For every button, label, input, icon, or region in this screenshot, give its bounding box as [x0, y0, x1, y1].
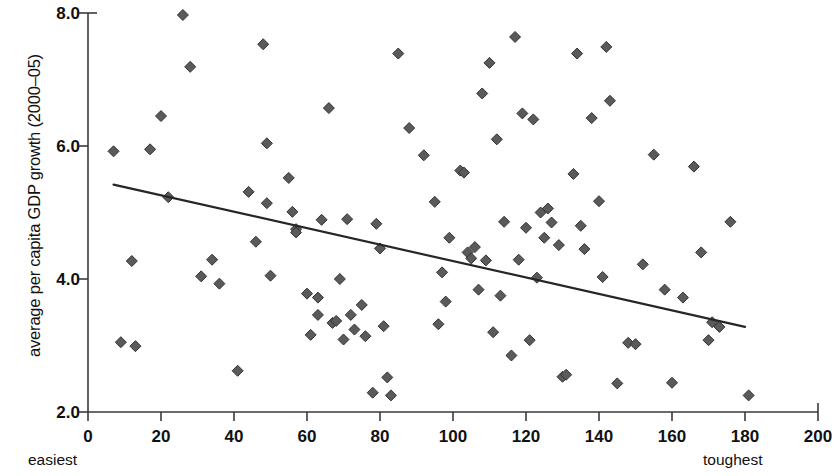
x-axis-tick-label: 20 — [152, 428, 171, 445]
plot-area — [0, 0, 834, 476]
data-point-marker — [145, 144, 156, 155]
data-point-marker — [521, 222, 532, 233]
data-point-marker — [312, 292, 323, 303]
data-point-marker — [484, 57, 495, 68]
data-point-marker — [477, 88, 488, 99]
data-point-marker — [338, 334, 349, 345]
data-point-marker — [185, 61, 196, 72]
data-point-marker — [349, 324, 360, 335]
data-point-marker — [302, 288, 313, 299]
data-point-marker — [539, 232, 550, 243]
data-point-marker — [491, 134, 502, 145]
data-point-marker — [586, 113, 597, 124]
data-point-marker — [214, 278, 225, 289]
data-point-marker — [385, 390, 396, 401]
data-point-marker — [495, 290, 506, 301]
data-point-marker — [126, 256, 137, 267]
x-axis-tick-label: 140 — [585, 428, 613, 445]
data-point-marker — [265, 270, 276, 281]
data-point-marker — [648, 149, 659, 160]
data-point-marker — [261, 198, 272, 209]
data-point-marker — [261, 138, 272, 149]
data-point-marker — [546, 217, 557, 228]
data-point-marker — [488, 327, 499, 338]
data-point-marker — [696, 247, 707, 258]
data-point-marker — [575, 220, 586, 231]
data-point-marker — [637, 259, 648, 270]
data-point-marker — [510, 31, 521, 42]
data-point-marker — [342, 214, 353, 225]
data-point-marker — [177, 9, 188, 20]
data-point-marker — [207, 254, 218, 265]
data-point-marker — [378, 321, 389, 332]
y-axis-ticks — [79, 13, 88, 412]
data-point-marker — [115, 337, 126, 348]
data-point-marker — [323, 103, 334, 114]
data-point-marker — [418, 150, 429, 161]
axis-lines — [88, 13, 818, 412]
data-point-marker — [437, 267, 448, 278]
data-point-marker — [360, 331, 371, 342]
data-point-marker — [579, 244, 590, 255]
data-point-marker — [572, 48, 583, 59]
data-point-marker — [367, 387, 378, 398]
data-point-marker — [250, 236, 261, 247]
data-point-marker — [703, 335, 714, 346]
data-point-marker — [553, 240, 564, 251]
x-axis-ticks — [88, 412, 818, 421]
data-point-marker — [108, 146, 119, 157]
data-point-marker — [156, 111, 167, 122]
data-point-marker — [283, 172, 294, 183]
data-point-marker — [528, 114, 539, 125]
data-point-marker — [499, 216, 510, 227]
data-point-marker — [517, 108, 528, 119]
data-point-marker — [316, 214, 327, 225]
x-axis-tick-label: 200 — [804, 428, 832, 445]
x-axis-right-end-label: toughest — [703, 452, 762, 468]
data-point-marker — [597, 272, 608, 283]
data-point-marker — [444, 232, 455, 243]
data-point-marker — [667, 377, 678, 388]
data-point-marker — [506, 350, 517, 361]
data-point-marker — [393, 48, 404, 59]
data-point-marker — [371, 218, 382, 229]
data-point-marker — [429, 196, 440, 207]
data-point-marker — [725, 216, 736, 227]
data-point-marker — [130, 341, 141, 352]
data-point-marker — [382, 372, 393, 383]
data-point-marker — [480, 255, 491, 266]
data-point-marker — [345, 309, 356, 320]
data-point-marker — [305, 329, 316, 340]
data-point-marker — [513, 254, 524, 265]
data-point-marker — [524, 335, 535, 346]
data-point-marker — [473, 284, 484, 295]
data-point-marker — [433, 319, 444, 330]
x-axis-tick-label: 160 — [658, 428, 686, 445]
data-point-marker — [334, 274, 345, 285]
data-point-marker — [568, 168, 579, 179]
data-point-marker — [243, 186, 254, 197]
data-point-marker — [604, 95, 615, 106]
data-point-marker — [232, 365, 243, 376]
x-axis-tick-label: 80 — [371, 428, 390, 445]
x-axis-tick-label: 180 — [731, 428, 759, 445]
data-point-marker — [287, 206, 298, 217]
scatter-chart: average per capita GDP growth (2000–05) … — [0, 0, 834, 476]
x-axis-tick-label: 120 — [512, 428, 540, 445]
data-point-marker — [688, 161, 699, 172]
trend-line — [114, 185, 745, 327]
x-axis-tick-label: 100 — [439, 428, 467, 445]
data-point-marker — [258, 39, 269, 50]
data-point-marker — [356, 299, 367, 310]
x-axis-tick-label: 60 — [298, 428, 317, 445]
data-point-marker — [601, 41, 612, 52]
data-point-marker — [312, 309, 323, 320]
x-axis-tick-label: 40 — [225, 428, 244, 445]
data-point-marker — [196, 271, 207, 282]
data-point-marker — [743, 390, 754, 401]
data-point-marker — [440, 296, 451, 307]
x-axis-tick-label: 0 — [83, 428, 92, 445]
data-point-marker — [659, 284, 670, 295]
data-point-marker — [404, 123, 415, 134]
data-point-marker — [594, 196, 605, 207]
